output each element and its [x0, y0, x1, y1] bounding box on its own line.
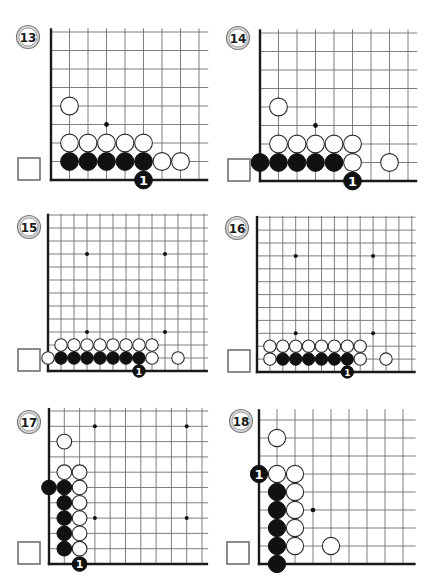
- white-stone: [61, 97, 79, 115]
- white-stone: [57, 434, 72, 449]
- black-stone: [107, 352, 119, 364]
- numbered-move: 1: [135, 171, 153, 189]
- diagram-number-badge: 18: [230, 410, 253, 433]
- to-play-box: [228, 350, 250, 372]
- go-diagram-sheet: 113114115116117118: [0, 0, 430, 579]
- numbered-move: 1: [344, 172, 362, 190]
- black-stone: [315, 353, 327, 365]
- black-stone: [290, 353, 302, 365]
- white-stone: [135, 134, 153, 152]
- white-stone: [107, 339, 119, 351]
- black-stone: [268, 483, 285, 500]
- go-diagram-16: 116: [226, 216, 416, 378]
- black-stone: [94, 352, 106, 364]
- star-point: [85, 330, 89, 334]
- black-stone: [57, 541, 72, 556]
- black-stone: [57, 495, 72, 510]
- move-number: 1: [76, 558, 84, 571]
- white-stone: [57, 465, 72, 480]
- black-stone: [57, 480, 72, 495]
- numbered-move: 1: [250, 465, 267, 482]
- white-stone: [172, 153, 190, 171]
- white-stone: [94, 339, 106, 351]
- white-stone: [328, 340, 340, 352]
- black-stone: [55, 352, 67, 364]
- black-stone: [268, 501, 285, 518]
- white-stone: [354, 340, 366, 352]
- star-point: [185, 424, 189, 428]
- black-stone: [79, 153, 97, 171]
- black-stone: [288, 154, 306, 172]
- white-stone: [268, 429, 285, 446]
- numbered-move: 1: [341, 366, 353, 378]
- white-stone: [72, 526, 87, 541]
- white-stone: [381, 154, 399, 172]
- black-stone: [81, 352, 93, 364]
- numbered-move: 1: [133, 365, 145, 377]
- black-stone: [135, 153, 153, 171]
- black-stone: [133, 352, 145, 364]
- white-stone: [172, 352, 184, 364]
- star-point: [163, 330, 167, 334]
- black-stone: [302, 353, 314, 365]
- star-point: [294, 331, 298, 335]
- white-stone: [146, 352, 158, 364]
- go-diagram-14: 114: [227, 27, 418, 190]
- star-point: [93, 516, 97, 520]
- white-stone: [264, 340, 276, 352]
- white-stone: [42, 352, 54, 364]
- diagram-number-badge: 13: [17, 26, 40, 49]
- white-stone: [55, 339, 67, 351]
- star-point: [163, 252, 167, 256]
- to-play-box: [228, 159, 250, 181]
- black-stone: [251, 154, 269, 172]
- move-number: 1: [139, 173, 148, 188]
- white-stone: [133, 339, 145, 351]
- black-stone: [98, 153, 116, 171]
- white-stone: [286, 483, 303, 500]
- diagram-number-badge: 15: [18, 216, 41, 239]
- to-play-box: [18, 158, 40, 180]
- white-stone: [344, 154, 362, 172]
- go-diagram-15: 115: [18, 214, 208, 378]
- white-stone: [146, 339, 158, 351]
- star-point: [185, 516, 189, 520]
- move-number: 1: [254, 467, 263, 482]
- diagram-number: 17: [21, 416, 38, 430]
- to-play-box: [18, 349, 40, 371]
- black-stone: [61, 153, 79, 171]
- diagram-number: 16: [229, 222, 246, 236]
- white-stone: [72, 495, 87, 510]
- white-stone: [380, 353, 392, 365]
- white-stone: [286, 537, 303, 554]
- go-diagram-17: 117: [18, 408, 209, 571]
- white-stone: [72, 511, 87, 526]
- white-stone: [341, 340, 353, 352]
- white-stone: [270, 135, 288, 153]
- white-stone: [68, 339, 80, 351]
- white-stone: [344, 135, 362, 153]
- black-stone: [68, 352, 80, 364]
- diagram-number: 13: [20, 31, 37, 45]
- go-diagram-18: 118: [227, 409, 416, 572]
- white-stone: [72, 541, 87, 556]
- white-stone: [264, 353, 276, 365]
- white-stone: [153, 153, 171, 171]
- star-point: [85, 252, 89, 256]
- white-stone: [286, 501, 303, 518]
- black-stone: [57, 511, 72, 526]
- black-stone: [328, 353, 340, 365]
- white-stone: [79, 134, 97, 152]
- star-point: [371, 254, 375, 258]
- white-stone: [120, 339, 132, 351]
- star-point: [311, 508, 316, 513]
- black-stone: [268, 555, 285, 572]
- white-stone: [354, 353, 366, 365]
- star-point: [93, 424, 97, 428]
- diagram-number-badge: 16: [226, 217, 249, 240]
- black-stone: [57, 526, 72, 541]
- star-point: [313, 123, 318, 128]
- white-stone: [322, 537, 339, 554]
- diagram-number-badge: 14: [227, 27, 250, 50]
- black-stone: [325, 154, 343, 172]
